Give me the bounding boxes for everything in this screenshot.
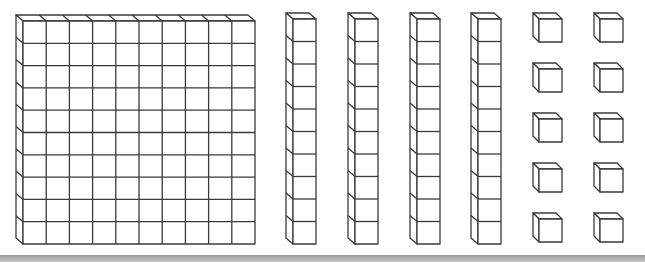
unit-cube — [594, 13, 623, 42]
unit-cube — [594, 63, 623, 92]
unit-cube — [594, 163, 623, 192]
ten-rod — [471, 13, 501, 244]
unit-cube — [533, 63, 562, 92]
ten-rod — [286, 13, 316, 244]
ten-rod — [348, 13, 378, 244]
unit-cube — [533, 213, 562, 242]
unit-cube — [594, 113, 623, 142]
unit-cube — [533, 163, 562, 192]
hundred-flat — [16, 15, 255, 244]
unit-cube — [533, 13, 562, 42]
blocks-canvas — [0, 0, 645, 262]
ten-rod — [410, 13, 440, 244]
unit-cube — [533, 113, 562, 142]
bottom-border — [0, 255, 645, 262]
base-ten-blocks-diagram — [0, 0, 645, 262]
unit-cube — [594, 213, 623, 242]
